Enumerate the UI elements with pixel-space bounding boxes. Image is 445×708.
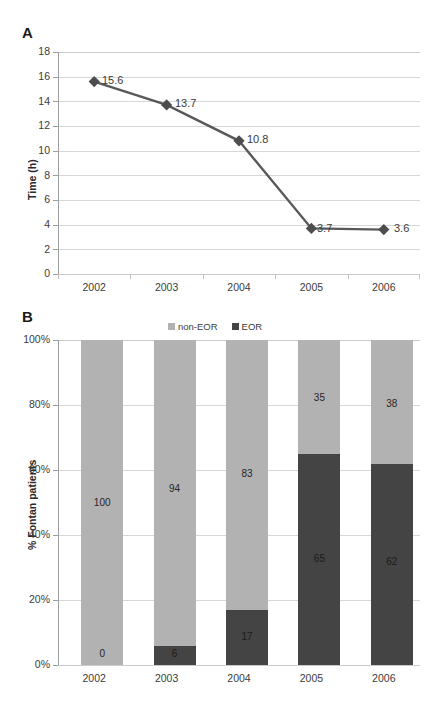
bar-value-2005-non-eor: 35: [298, 392, 340, 403]
xtick-edge-2: [203, 274, 204, 279]
ytick-40pct: [53, 535, 58, 536]
marker-2002: [89, 76, 100, 87]
legend-item-eor[interactable]: EOR: [232, 321, 263, 332]
bar-value-2006-non-eor: 38: [371, 398, 413, 409]
panel-b-xtick-label-2004: 2004: [203, 672, 275, 684]
xtick-edge-1: [130, 274, 131, 279]
point-label-2005: 3.7: [317, 222, 332, 234]
bar-value-2002-non-eor: 100: [81, 497, 123, 508]
panel-b-xtick-label-2005: 2005: [275, 672, 347, 684]
panel-a-ytick-label-12: 12: [18, 119, 50, 131]
panel-b-y-axis: [58, 340, 59, 665]
bar-value-2002-eor: 0: [81, 648, 123, 659]
marker-2006: [378, 224, 389, 235]
panel-a-xtick-label-2005: 2005: [275, 281, 347, 293]
panel-a-ytick-label-10: 10: [18, 144, 50, 156]
legend-swatch-eor-icon: [232, 323, 239, 330]
point-label-2003: 13.7: [175, 97, 196, 109]
panel-b-ytick-label-100: 100%: [10, 333, 50, 345]
point-label-2006: 3.6: [394, 222, 409, 234]
panel-a-xtick-label-2004: 2004: [203, 281, 275, 293]
marker-2003: [161, 99, 172, 110]
panel-b-ytick-label-20: 20%: [10, 593, 50, 605]
panel-a-ytick-label-6: 6: [18, 193, 50, 205]
panel-a-ytick-label-8: 8: [18, 169, 50, 181]
bar-value-2003-non-eor: 94: [154, 483, 196, 494]
xtick-edge-0: [58, 274, 59, 279]
legend-item-non-eor[interactable]: non-EOR: [168, 321, 218, 332]
panel-b-label: B: [22, 308, 33, 325]
legend-label-non-eor: non-EOR: [178, 321, 218, 332]
panel-b: B non-EOR EOR: [0, 300, 445, 708]
panel-a-ytick-label-4: 4: [18, 218, 50, 230]
panel-a-plot-area: 15.6 13.7 10.8 3.7 3.6: [58, 52, 420, 274]
xtick-edge-4: [348, 274, 349, 279]
point-label-2002: 15.6: [102, 74, 123, 86]
panel-a-ytick-label-16: 16: [18, 70, 50, 82]
panel-b-xtick-label-2003: 2003: [130, 672, 202, 684]
panel-b-xtick-label-2002: 2002: [58, 672, 130, 684]
panel-b-xtick-label-2006: 2006: [348, 672, 420, 684]
ytick-100pct: [53, 340, 58, 341]
ytick-20pct: [53, 600, 58, 601]
line-path: [94, 82, 384, 230]
panel-a-xtick-label-2003: 2003: [130, 281, 202, 293]
bar-value-2006-eor: 62: [371, 556, 413, 567]
xtick-edge-3: [275, 274, 276, 279]
ytick-80pct: [53, 405, 58, 406]
point-label-2004: 10.8: [247, 133, 268, 145]
panel-a-ytick-label-0: 0: [18, 267, 50, 279]
panel-b-plot-area: 0 100 6 94 17 83 65 35 62 38: [58, 340, 420, 665]
legend-swatch-non-eor-icon: [168, 323, 175, 330]
panel-a-xtick-label-2002: 2002: [58, 281, 130, 293]
bar-value-2004-eor: 17: [226, 631, 268, 642]
panel-a-ytick-label-14: 14: [18, 95, 50, 107]
panel-a-label: A: [22, 24, 33, 41]
ytick-0pct: [53, 665, 58, 666]
bar-value-2003-eor: 6: [154, 648, 196, 659]
panel-a-ytick-label-2: 2: [18, 243, 50, 255]
panel-a: A Time (h): [0, 0, 445, 300]
panel-a-x-axis: [58, 274, 420, 275]
xtick-edge-5: [419, 274, 420, 279]
panel-b-ytick-label-0: 0%: [10, 658, 50, 670]
legend-label-eor: EOR: [242, 321, 263, 332]
panel-b-ytick-label-40: 40%: [10, 528, 50, 540]
marker-group: [89, 76, 390, 235]
panel-a-ytick-label-18: 18: [18, 45, 50, 57]
panel-b-x-axis: [58, 665, 420, 666]
panel-a-xtick-label-2006: 2006: [348, 281, 420, 293]
figure-container: A Time (h): [0, 0, 445, 708]
bar-value-2004-non-eor: 83: [226, 468, 268, 479]
bar-value-2005-eor: 65: [298, 553, 340, 564]
ytick-60pct: [53, 470, 58, 471]
panel-b-ytick-label-60: 60%: [10, 463, 50, 475]
panel-b-legend: non-EOR EOR: [168, 321, 262, 332]
panel-b-ytick-label-80: 80%: [10, 398, 50, 410]
